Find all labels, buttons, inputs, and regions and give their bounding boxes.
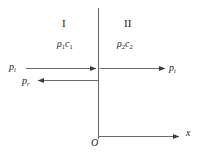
region-1-c-symbol: c	[65, 38, 69, 49]
diagram-canvas	[0, 0, 199, 158]
region-1-numeral: I	[62, 18, 66, 29]
region-2-c-symbol: c	[125, 38, 129, 49]
figure-container: I II ρ1c1 ρ2c2 pi pr pt O x	[0, 0, 199, 158]
region-2-c-subscript: 2	[130, 43, 133, 50]
transmitted-subscript: t	[174, 67, 176, 74]
transmitted-wave-label: pt	[169, 63, 176, 73]
reflected-wave-label: pr	[22, 76, 30, 86]
region-2-impedance-label: ρ2c2	[117, 39, 133, 49]
region-1-impedance-label: ρ1c1	[57, 39, 73, 49]
region-1-c-subscript: 1	[70, 43, 73, 50]
incident-wave-label: pi	[9, 62, 16, 72]
x-axis-label: x	[186, 128, 190, 138]
region-1-rho-subscript: 1	[62, 43, 65, 50]
reflected-subscript: r	[27, 80, 30, 87]
region-2-numeral: II	[124, 18, 132, 29]
region-2-rho-subscript: 2	[122, 43, 125, 50]
incident-subscript: i	[14, 66, 16, 73]
origin-label: O	[91, 138, 98, 148]
